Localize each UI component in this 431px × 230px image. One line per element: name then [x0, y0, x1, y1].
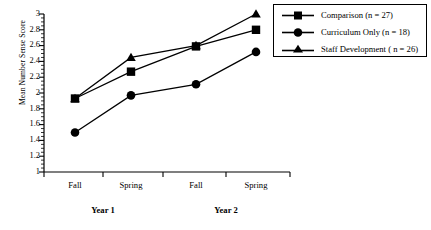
- data-point-marker: [127, 91, 136, 100]
- data-point-marker: [192, 80, 201, 89]
- legend: Comparison (n = 27) Curriculum Only (n =…: [273, 4, 427, 57]
- data-point-marker: [251, 9, 261, 17]
- legend-label-comparison: Comparison (n = 27): [321, 10, 393, 20]
- circle-marker-icon: [281, 24, 315, 41]
- legend-label-staff-development: Staff Development ( n = 26): [321, 44, 418, 54]
- square-marker-icon: [281, 7, 315, 24]
- legend-item-comparison: Comparison (n = 27): [274, 7, 426, 24]
- triangle-marker-icon: [281, 41, 315, 58]
- number-sense-line-chart: Mean Number Sense Score 11.21.41.61.822.…: [0, 0, 431, 230]
- series-line-1: [75, 52, 256, 133]
- legend-label-curriculum-only: Curriculum Only (n = 18): [321, 27, 410, 37]
- data-point-marker: [252, 26, 260, 34]
- data-point-marker: [127, 67, 135, 75]
- series-line-0: [75, 30, 256, 99]
- data-point-marker: [71, 128, 80, 137]
- legend-item-curriculum-only: Curriculum Only (n = 18): [274, 24, 426, 41]
- data-point-marker: [252, 48, 261, 57]
- legend-item-staff-development: Staff Development ( n = 26): [274, 41, 426, 58]
